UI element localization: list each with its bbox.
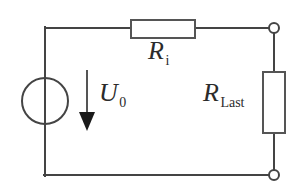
terminal-top-icon xyxy=(269,23,279,33)
terminal-bottom-icon xyxy=(269,170,279,180)
label-load-resistance-subscript: Last xyxy=(220,95,244,110)
label-internal-resistance-base: R xyxy=(148,36,164,65)
label-source-voltage-base: U xyxy=(99,78,118,107)
label-internal-resistance-subscript: i xyxy=(165,53,169,68)
label-load-resistance: RLast xyxy=(203,80,244,106)
circuit-diagram: Ri RLast U0 xyxy=(0,0,305,189)
circuit-schematic-canvas xyxy=(0,0,305,189)
label-source-voltage: U0 xyxy=(99,80,125,106)
resistor-load-body xyxy=(263,72,285,133)
label-internal-resistance: Ri xyxy=(148,38,168,64)
label-load-resistance-base: R xyxy=(203,78,219,107)
voltage-arrow-icon xyxy=(79,70,95,131)
label-source-voltage-subscript: 0 xyxy=(119,95,126,110)
